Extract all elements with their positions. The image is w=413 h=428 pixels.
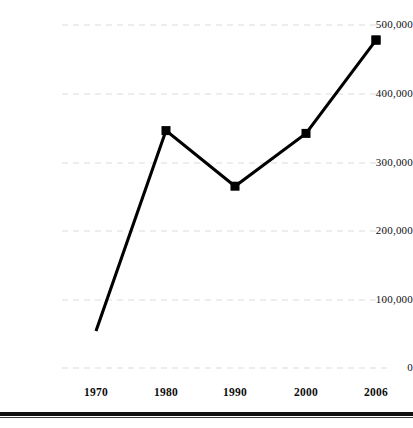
x-tick-label-2000: 2000	[276, 386, 336, 398]
x-tick-label-1990: 1990	[205, 386, 265, 398]
x-tick-label-1970: 1970	[66, 386, 126, 398]
x-tick-label-1980: 1980	[136, 386, 196, 398]
x-axis-tick-labels: 1970 1980 1990 2000 2006	[0, 0, 413, 428]
footer-divider-rule-thin	[0, 417, 413, 418]
x-tick-label-2006: 2006	[346, 386, 406, 398]
line-chart-figure: 500,000 400,000 300,000 200,000 100,000 …	[0, 0, 413, 428]
footer-divider-rule	[0, 412, 413, 416]
